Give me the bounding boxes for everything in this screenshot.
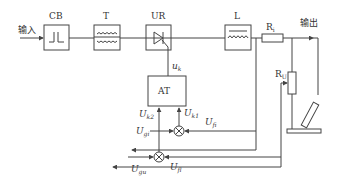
ugu-label: Ugu xyxy=(131,164,146,176)
input-label: 输入 xyxy=(18,24,36,35)
switch-icon xyxy=(49,32,64,42)
uk1-label: Uk1 xyxy=(184,108,199,119)
uk2-label: Uk2 xyxy=(139,109,154,120)
ur-label: UR xyxy=(151,11,166,21)
l-block xyxy=(225,25,251,50)
output-label: 输出 xyxy=(300,17,318,28)
l-label: L xyxy=(234,11,240,21)
ufu-label: Ufl xyxy=(170,162,182,174)
transformer-coil-icon xyxy=(97,33,117,35)
ugi-label: Ugi xyxy=(136,126,149,138)
cb-block xyxy=(44,25,69,50)
welding-power-control-diagram: 输入 输出 CB T UR L AT Ri RU uk Uk2 Uk1 Ugi … xyxy=(0,0,337,185)
inductor-coil-icon xyxy=(228,36,248,38)
resistor-ru xyxy=(288,72,296,94)
ufi-label: Ufi xyxy=(205,117,217,129)
t-label: T xyxy=(103,11,109,21)
uk-label: uk xyxy=(172,61,182,72)
ru-label: RU xyxy=(275,69,287,80)
torch-icon xyxy=(301,102,319,128)
resistor-ri xyxy=(262,34,283,42)
cb-label: CB xyxy=(49,11,63,21)
at-label: AT xyxy=(157,86,170,96)
ri-label: Ri xyxy=(266,22,275,33)
workpiece-plate xyxy=(287,129,321,133)
